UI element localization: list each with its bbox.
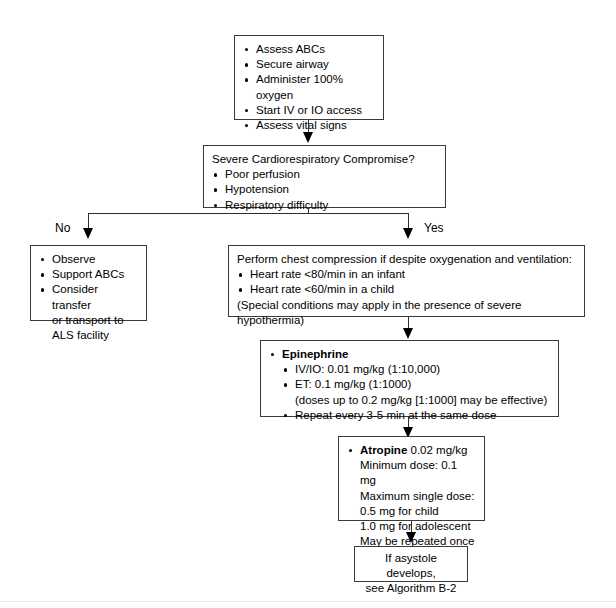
branch-label-no: No [55, 221, 70, 235]
epinephrine-repeat: Repeat every 3-5 min at the same dose [282, 408, 550, 423]
epinephrine-drug-name: Epinephrine [269, 347, 550, 362]
list-item: Secure airway [243, 57, 375, 72]
node-no-branch-observe: Observe Support ABCs Consider transfer o… [30, 245, 147, 321]
node-atropine: Atropine 0.02 mg/kg Minimum dose: 0.1 mg… [338, 436, 485, 521]
atropine-dose: 0.02 mg/kg [410, 444, 467, 456]
list-item-continuation: ALS facility [39, 328, 138, 343]
atropine-child-dose: 0.5 mg for child [347, 504, 476, 519]
node-asystole-referral: If asystole develops, see Algorithm B-2 [354, 546, 468, 582]
arrowhead-down-yes [403, 228, 413, 239]
no-branch-list: Observe Support ABCs Consider transfer o… [39, 252, 138, 343]
list-item: Heart rate <60/min in a child [237, 282, 576, 297]
chest-compression-footnote: (Special conditions may apply in the pre… [237, 298, 576, 328]
chest-compression-list: Heart rate <80/min in an infant Heart ra… [237, 267, 576, 297]
epinephrine-list: Epinephrine [269, 347, 550, 362]
branch-label-yes: Yes [424, 221, 444, 235]
atropine-drug-name: Atropine [360, 444, 407, 456]
decision-heading: Severe Cardiorespiratory Compromise? [212, 152, 437, 167]
list-item: Heart rate <80/min in an infant [237, 267, 576, 282]
list-item: IV/IO: 0.01 mg/kg (1:10,000) [282, 362, 550, 377]
connector-branch-split [88, 213, 409, 214]
decision-list: Poor perfusion Hypotension Respiratory d… [212, 167, 437, 213]
epinephrine-sublist: IV/IO: 0.01 mg/kg (1:10,000) ET: 0.1 mg/… [269, 362, 550, 423]
list-item: Support ABCs [39, 267, 138, 282]
node-epinephrine: Epinephrine IV/IO: 0.01 mg/kg (1:10,000)… [260, 340, 559, 417]
list-item: Administer 100% oxygen [243, 72, 375, 102]
list-item: Start IV or IO access [243, 103, 375, 118]
list-item: ET: 0.1 mg/kg (1:1000) [282, 377, 550, 392]
list-item: Respiratory difficulty [212, 198, 437, 213]
flowchart-canvas: Assess ABCs Secure airway Administer 100… [0, 0, 616, 608]
list-item: Consider transfer [39, 282, 138, 312]
node-initial-assessment: Assess ABCs Secure airway Administer 100… [234, 35, 384, 120]
initial-assessment-list: Assess ABCs Secure airway Administer 100… [243, 42, 375, 133]
list-item-continuation: or transport to [39, 313, 138, 328]
chest-compression-heading: Perform chest compression if despite oxy… [237, 252, 576, 267]
atropine-max-dose-label: Maximum single dose: [347, 489, 476, 504]
arrowhead-down [406, 532, 416, 543]
asystole-line-2: see Algorithm B-2 [363, 581, 459, 596]
connector-no-drop [88, 213, 89, 229]
atropine-min-dose: Minimum dose: 0.1 mg [347, 458, 476, 488]
node-chest-compression: Perform chest compression if despite oxy… [228, 245, 585, 317]
list-item: Poor perfusion [212, 167, 437, 182]
node-decision-compromise: Severe Cardiorespiratory Compromise? Poo… [203, 145, 446, 208]
arrowhead-down-no [83, 228, 93, 239]
list-item: Observe [39, 252, 138, 267]
arrowhead-down [403, 328, 413, 339]
asystole-line-1: If asystole develops, [363, 551, 459, 581]
list-item: Hypotension [212, 182, 437, 197]
epinephrine-note: (doses up to 0.2 mg/kg [1:1000] may be e… [282, 393, 550, 408]
list-item: Assess vital signs [243, 118, 375, 133]
page-bottom-edge [0, 601, 616, 602]
arrowhead-down [303, 132, 313, 143]
connector-yes-drop [408, 213, 409, 229]
atropine-dose-line: Atropine 0.02 mg/kg [347, 443, 476, 458]
list-item: Assess ABCs [243, 42, 375, 57]
